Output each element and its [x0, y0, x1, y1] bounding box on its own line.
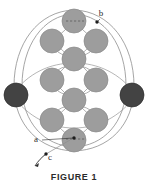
light-spheres-group [40, 9, 108, 152]
sphere-mid-left [40, 68, 64, 92]
marker-b [95, 20, 98, 23]
dashed-axis-group [66, 21, 86, 139]
marker-a [72, 136, 75, 139]
sphere-mid-right [84, 68, 108, 92]
sphere-upper-mid-center [62, 47, 86, 71]
sphere-bottom-center [62, 128, 86, 152]
figure-diagram: a b c [0, 0, 148, 186]
arrow-c-curve [35, 154, 46, 166]
sphere-lower-mid-center [62, 88, 86, 112]
sphere-lower-right [84, 108, 108, 132]
figure-caption: FIGURE 1 [0, 166, 148, 184]
figure-container: a b c FIGURE 1 [0, 0, 148, 186]
label-b: b [99, 8, 104, 18]
sphere-dark-left [4, 83, 28, 107]
sphere-upper-right [84, 29, 108, 53]
label-a: a [34, 134, 38, 144]
figure-caption-text: FIGURE 1 [51, 172, 97, 182]
sphere-dark-right [120, 83, 144, 107]
sphere-lower-left [40, 108, 64, 132]
label-c: c [48, 152, 52, 162]
sphere-upper-left [40, 29, 64, 53]
